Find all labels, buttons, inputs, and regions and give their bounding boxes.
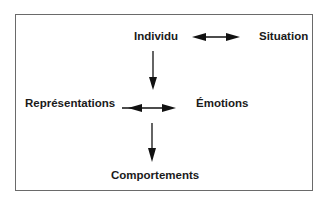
bidirectional-arrow-representations-emotions — [122, 104, 176, 112]
bidirectional-arrow-individu-situation — [192, 33, 240, 41]
down-arrow-individu — [149, 51, 157, 90]
arrows-layer — [0, 0, 332, 208]
down-arrow-comportements — [148, 123, 156, 162]
